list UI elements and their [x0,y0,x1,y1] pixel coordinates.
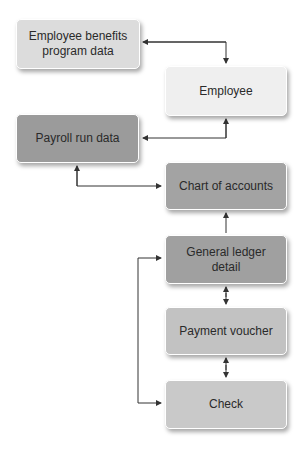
node-payroll-run-data: Payroll run data [16,114,139,163]
node-check: Check [165,380,287,429]
node-label: Payroll run data [35,131,119,146]
node-general-ledger-detail: General ledgerdetail [165,235,287,284]
node-label: Employee benefits [29,29,128,43]
edge-check-ledger [138,258,161,403]
node-chart-of-accounts: Chart of accounts [165,162,287,210]
node-label: Chart of accounts [179,179,273,194]
edge-payroll-chart [77,167,161,186]
node-employee: Employee [165,66,287,116]
node-label: program data [42,44,113,58]
node-label: Check [209,397,243,412]
edge-benefits-employee [144,42,226,63]
node-label: Payment voucher [179,324,272,339]
node-label: Employee [199,84,252,99]
node-label: General ledger [186,245,265,259]
node-payment-voucher: Payment voucher [165,307,287,355]
node-employee-benefits-program-data: Employee benefitsprogram data [16,19,140,69]
edge-payroll-employee [143,121,226,138]
node-label: detail [212,260,241,274]
